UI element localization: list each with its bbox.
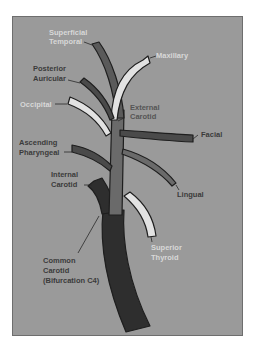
facial-vessel <box>120 130 193 142</box>
label-superficial-temporal-line2: Temporal <box>49 37 82 46</box>
carotid-diagram <box>0 0 253 344</box>
superior-thyroid-vessel <box>124 192 156 237</box>
label-superior-thyroid-line1: Superior <box>151 243 182 252</box>
label-common-carotid-line3: (Bifurcation C4) <box>43 276 99 285</box>
label-ascending-pharyngeal-line2: Pharyngeal <box>19 148 59 157</box>
label-external-carotid-line2: Carotid <box>130 112 156 121</box>
label-maxillary: Maxillary <box>156 51 188 60</box>
label-posterior-auricular-line2: Auricular <box>33 74 66 83</box>
label-external-carotid-line1: External <box>130 103 160 112</box>
label-facial: Facial <box>201 130 222 139</box>
label-ascending-pharyngeal-line1: Ascending <box>19 138 57 147</box>
label-superficial-temporal-line1: Superficial <box>49 28 87 37</box>
lingual-vessel <box>122 149 176 186</box>
label-common-carotid-line2: Carotid <box>43 266 69 275</box>
label-lingual: Lingual <box>177 190 204 199</box>
label-internal-carotid-line2: Carotid <box>51 180 77 189</box>
external-carotid-vessel <box>109 110 124 215</box>
label-internal-carotid-line1: Internal <box>51 170 78 179</box>
common-carotid-vessel <box>102 210 150 332</box>
label-posterior-auricular-line1: Posterior <box>33 64 66 73</box>
ascending-pharyngeal-vessel <box>72 145 112 171</box>
label-common-carotid-line1: Common <box>43 256 76 265</box>
label-occipital: Occipital <box>20 100 52 109</box>
label-superior-thyroid-line2: Thyroid <box>151 253 179 262</box>
